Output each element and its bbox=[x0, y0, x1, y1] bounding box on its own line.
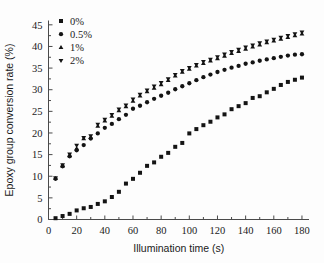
x-tick-label: 180 bbox=[294, 225, 310, 236]
data-point-square bbox=[201, 123, 205, 127]
x-tick-label: 20 bbox=[71, 225, 82, 236]
y-tick-label: 35 bbox=[32, 63, 43, 74]
legend-entry: 0.5% bbox=[59, 29, 92, 40]
data-point-square bbox=[68, 212, 72, 216]
data-point-triangle-down bbox=[250, 43, 255, 47]
data-point-square bbox=[272, 87, 276, 91]
data-point-circle bbox=[187, 81, 191, 85]
data-point-square bbox=[54, 216, 58, 220]
data-point-circle bbox=[265, 57, 269, 61]
legend-entry: 2% bbox=[59, 55, 85, 66]
data-point-circle bbox=[103, 126, 107, 130]
scatter-plot: 0204060801001201401601800510152025303540… bbox=[0, 0, 324, 263]
data-series-layer bbox=[53, 30, 304, 220]
series-1pct bbox=[53, 31, 304, 180]
data-point-triangle-down bbox=[159, 81, 164, 85]
data-point-circle bbox=[194, 78, 198, 82]
data-point-circle bbox=[243, 62, 247, 66]
data-point-circle bbox=[82, 143, 86, 147]
legend-label: 2% bbox=[70, 55, 84, 66]
data-point-circle bbox=[251, 60, 255, 64]
data-point-triangle-down bbox=[201, 60, 206, 64]
y-tick-label: 0 bbox=[37, 214, 42, 225]
data-point-circle bbox=[293, 53, 297, 57]
data-point-square bbox=[75, 208, 79, 212]
data-point-circle bbox=[300, 52, 304, 56]
data-point-square bbox=[152, 160, 156, 164]
series-0-5pct bbox=[53, 52, 304, 181]
data-point-square bbox=[237, 104, 241, 108]
data-point-circle bbox=[236, 64, 240, 68]
data-point-circle bbox=[124, 113, 128, 117]
y-tick-label: 25 bbox=[32, 106, 43, 117]
y-tick-label: 10 bbox=[32, 171, 43, 182]
data-point-circle bbox=[258, 59, 262, 63]
data-point-circle bbox=[117, 117, 121, 121]
data-point-circle bbox=[272, 56, 276, 60]
legend-marker-circle bbox=[59, 32, 63, 36]
legend-entry: 1% bbox=[59, 42, 85, 53]
x-tick-label: 80 bbox=[156, 225, 167, 236]
y-tick-label: 15 bbox=[32, 149, 43, 160]
legend-marker-triangle-down bbox=[59, 59, 64, 63]
chart-legend: 0%0.5%1%2% bbox=[59, 16, 93, 67]
data-point-square bbox=[244, 101, 248, 105]
data-point-circle bbox=[215, 70, 219, 74]
data-point-square bbox=[208, 120, 212, 124]
x-axis-title: Illumination time (s) bbox=[133, 242, 224, 254]
x-tick-label: 0 bbox=[46, 225, 51, 236]
data-point-square bbox=[300, 76, 304, 80]
data-point-circle bbox=[229, 65, 233, 69]
legend-label: 0.5% bbox=[70, 29, 92, 40]
data-point-triangle-down bbox=[229, 50, 234, 54]
data-point-circle bbox=[279, 55, 283, 59]
data-point-circle bbox=[208, 72, 212, 76]
data-point-circle bbox=[159, 94, 163, 98]
data-point-square bbox=[187, 131, 191, 135]
data-point-square bbox=[194, 127, 198, 131]
data-point-triangle-down bbox=[243, 46, 248, 50]
data-point-square bbox=[265, 90, 269, 94]
data-point-circle bbox=[110, 122, 114, 126]
data-point-triangle-down bbox=[285, 34, 290, 38]
data-point-square bbox=[166, 151, 170, 155]
y-tick-label: 40 bbox=[32, 41, 43, 52]
data-point-triangle-down bbox=[74, 144, 79, 148]
data-point-square bbox=[180, 141, 184, 145]
data-point-square bbox=[61, 214, 65, 218]
data-point-square bbox=[279, 83, 283, 87]
series-0pct bbox=[54, 76, 304, 221]
data-point-circle bbox=[180, 84, 184, 88]
legend-entry: 0% bbox=[59, 16, 84, 27]
data-point-square bbox=[230, 107, 234, 111]
data-point-square bbox=[131, 177, 135, 181]
data-point-square bbox=[258, 94, 262, 98]
y-axis-title: Epoxy group conversion rate (%) bbox=[3, 44, 15, 197]
data-point-triangle-down bbox=[152, 85, 157, 89]
data-point-square bbox=[215, 115, 219, 119]
data-point-square bbox=[223, 112, 227, 116]
x-tick-label: 120 bbox=[210, 225, 226, 236]
data-point-circle bbox=[138, 104, 142, 108]
data-point-triangle-down bbox=[300, 30, 305, 34]
data-point-triangle-down bbox=[95, 123, 100, 127]
data-point-square bbox=[103, 199, 107, 203]
data-point-square bbox=[145, 164, 149, 168]
x-tick-label: 160 bbox=[266, 225, 282, 236]
x-tick-label: 60 bbox=[128, 225, 139, 236]
data-point-triangle-down bbox=[222, 53, 227, 57]
y-tick-label: 30 bbox=[32, 84, 43, 95]
data-point-square bbox=[159, 155, 163, 159]
data-point-square bbox=[96, 202, 100, 206]
data-point-square bbox=[251, 96, 255, 100]
data-point-circle bbox=[222, 68, 226, 72]
data-point-circle bbox=[96, 131, 100, 135]
x-tick-label: 100 bbox=[181, 225, 197, 236]
data-point-triangle-down bbox=[278, 36, 283, 40]
data-point-square bbox=[173, 145, 177, 149]
legend-label: 0% bbox=[70, 16, 84, 27]
data-point-circle bbox=[201, 75, 205, 79]
data-point-circle bbox=[131, 107, 135, 111]
data-point-square bbox=[110, 195, 114, 199]
data-point-square bbox=[89, 205, 93, 209]
